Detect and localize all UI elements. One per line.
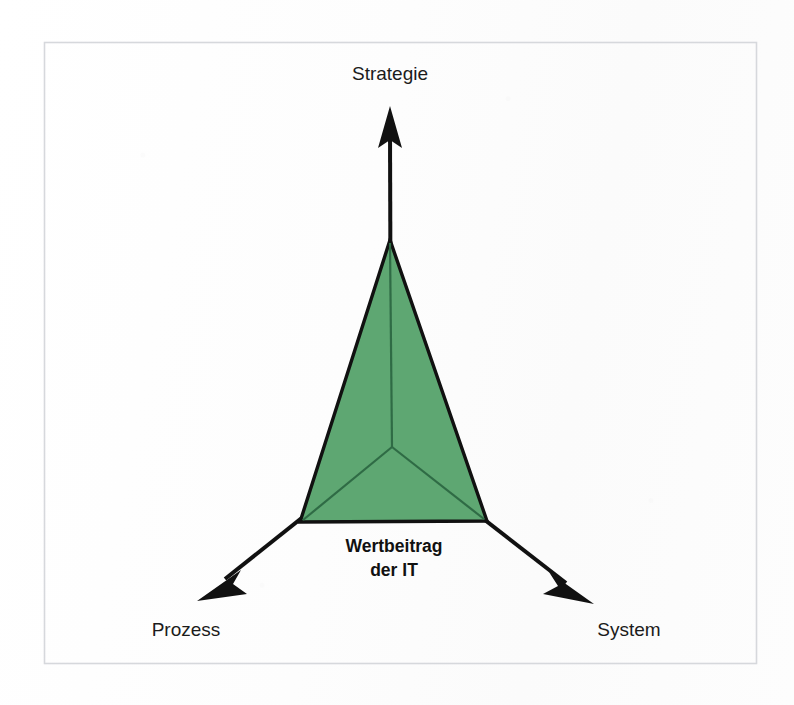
arrowhead-system-icon xyxy=(543,572,594,604)
value-contribution-diagram: Strategie Prozess System Wertbeitrag der… xyxy=(0,0,794,705)
axis-label-prozess: Prozess xyxy=(152,619,221,640)
axis-label-system: System xyxy=(597,619,660,640)
center-label-line2: der IT xyxy=(370,560,418,580)
center-label: Wertbeitrag der IT xyxy=(346,536,443,580)
arrowhead-prozess-icon xyxy=(197,570,247,601)
value-contribution-triangle xyxy=(300,240,487,522)
triangle-fill xyxy=(300,240,487,522)
axis-label-strategie: Strategie xyxy=(352,63,428,84)
diagram-canvas: Strategie Prozess System Wertbeitrag der… xyxy=(0,0,794,705)
center-label-line1: Wertbeitrag xyxy=(346,536,443,556)
